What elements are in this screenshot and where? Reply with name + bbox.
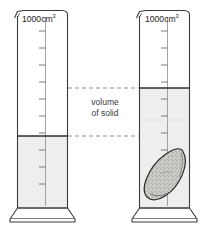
annotation-line-2: of solid	[74, 108, 136, 119]
capacity-unit-sup-left: 3	[53, 13, 56, 19]
capacity-value-left: 1000	[22, 14, 41, 24]
capacity-unit-sup-right: 3	[176, 13, 179, 19]
cylinder-base-right	[132, 208, 197, 222]
water-body-left	[18, 136, 68, 208]
cylinder-rim-inner-left	[18, 13, 20, 17]
volume-of-solid-annotation: volume of solid	[74, 97, 136, 119]
cylinder-base-left	[10, 208, 75, 222]
cylinder-rim-inner-right	[140, 13, 142, 17]
capacity-unit-left: cm	[41, 14, 52, 24]
displacement-diagram: 1000cm3 1000cm3 volume of solid	[0, 0, 208, 231]
annotation-line-1: volume	[74, 97, 136, 108]
cylinder-right	[132, 11, 197, 223]
capacity-label-right: 1000cm3	[145, 14, 179, 24]
cylinder-left	[10, 11, 75, 223]
capacity-value-right: 1000	[145, 14, 164, 24]
capacity-label-left: 1000cm3	[22, 14, 56, 24]
capacity-unit-right: cm	[164, 14, 175, 24]
